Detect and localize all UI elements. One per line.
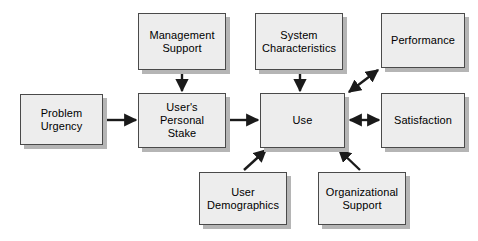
node-system-characteristics-label: System Characteristics <box>259 29 339 55</box>
edge-organizational-support-to-use <box>339 150 360 170</box>
node-user-demographics[interactable]: User Demographics <box>199 172 287 225</box>
edge-use-to-performance <box>349 70 378 92</box>
node-use-label: Use <box>290 114 316 127</box>
node-performance[interactable]: Performance <box>381 13 465 68</box>
node-users-personal-stake-label: User's Personal Stake <box>157 101 207 140</box>
flow-diagram-canvas: Problem Urgency Management Support User'… <box>0 0 478 241</box>
node-problem-urgency-label: Problem Urgency <box>38 107 86 133</box>
node-users-personal-stake[interactable]: User's Personal Stake <box>138 93 226 148</box>
node-system-characteristics[interactable]: System Characteristics <box>255 13 343 70</box>
node-use[interactable]: Use <box>260 93 345 148</box>
node-satisfaction-label: Satisfaction <box>391 114 455 127</box>
node-management-support[interactable]: Management Support <box>138 13 226 70</box>
node-organizational-support[interactable]: Organizational Support <box>318 172 406 225</box>
node-problem-urgency[interactable]: Problem Urgency <box>20 94 103 145</box>
node-satisfaction[interactable]: Satisfaction <box>381 93 465 148</box>
node-performance-label: Performance <box>388 34 458 47</box>
node-user-demographics-label: User Demographics <box>204 186 282 212</box>
node-organizational-support-label: Organizational Support <box>323 186 401 212</box>
node-management-support-label: Management Support <box>146 29 217 55</box>
edge-user-demographics-to-use <box>244 150 266 170</box>
